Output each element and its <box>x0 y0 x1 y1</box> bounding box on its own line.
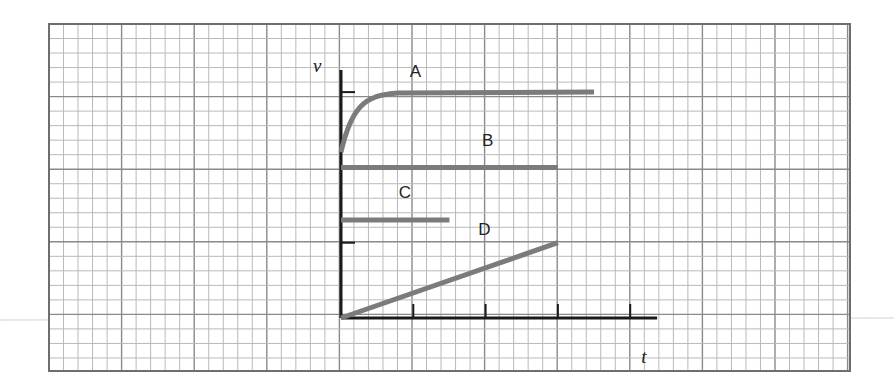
curve-label-b: B <box>482 131 493 150</box>
velocity-time-graph: v t ABCD <box>0 0 894 387</box>
curve-label-d: D <box>478 220 490 239</box>
y-axis-label: v <box>313 55 322 76</box>
curve-label-c: C <box>399 183 411 202</box>
curve-label-a: A <box>410 62 422 81</box>
x-axis-label: t <box>641 346 647 367</box>
